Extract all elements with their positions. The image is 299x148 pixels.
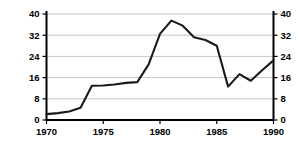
chart-container: Dollars per Billion Barrels (average for…	[0, 0, 299, 148]
y-tick-label-right-0: 0	[281, 114, 286, 125]
y-tick-label-left-40: 40	[29, 8, 40, 19]
x-tick-label-1975: 1975	[93, 126, 115, 137]
line-chart-plot: 0816243240 0816243240 197019751980198519…	[0, 0, 299, 148]
x-axis-ticks: 19701975198019851990	[36, 120, 284, 137]
data-series-line	[47, 21, 274, 115]
x-tick-label-1990: 1990	[263, 126, 284, 137]
y-tick-label-left-32: 32	[29, 30, 40, 41]
y-tick-label-left-16: 16	[29, 72, 40, 83]
y-tick-label-right-24: 24	[281, 51, 292, 62]
y-tick-label-right-8: 8	[281, 93, 286, 104]
y-tick-label-right-16: 16	[281, 72, 292, 83]
y-axis-right-ticks: 0816243240	[274, 8, 292, 125]
y-tick-label-left-24: 24	[29, 51, 40, 62]
y-tick-label-left-0: 0	[34, 114, 39, 125]
gridlines-group	[47, 14, 274, 99]
x-tick-label-1970: 1970	[36, 126, 57, 137]
y-tick-label-right-32: 32	[281, 30, 292, 41]
y-tick-label-right-40: 40	[281, 8, 292, 19]
x-tick-label-1985: 1985	[206, 126, 228, 137]
y-tick-label-left-8: 8	[34, 93, 39, 104]
y-axis-left-ticks: 0816243240	[29, 8, 47, 125]
x-tick-label-1980: 1980	[149, 126, 170, 137]
